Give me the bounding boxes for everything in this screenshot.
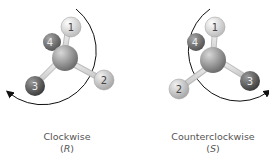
configuration-label: (S) bbox=[146, 143, 269, 155]
stereocenter bbox=[52, 45, 78, 71]
right-molecule: 4 1 2 3 bbox=[169, 9, 268, 101]
svg-text:2: 2 bbox=[101, 75, 107, 86]
left-caption: Clockwise (R) bbox=[0, 131, 134, 155]
configuration-label: (R) bbox=[0, 143, 134, 155]
svg-text:1: 1 bbox=[212, 22, 218, 33]
svg-text:4: 4 bbox=[47, 37, 53, 48]
svg-text:2: 2 bbox=[176, 84, 182, 95]
svg-text:1: 1 bbox=[68, 22, 74, 33]
svg-text:3: 3 bbox=[32, 81, 38, 92]
stereocenter bbox=[200, 47, 226, 73]
direction-label: Clockwise bbox=[0, 131, 134, 143]
direction-label: Counterclockwise bbox=[146, 131, 269, 143]
left-molecule: 4 1 2 3 bbox=[9, 9, 114, 105]
svg-text:4: 4 bbox=[192, 37, 198, 48]
right-caption: Counterclockwise (S) bbox=[146, 131, 269, 155]
svg-text:3: 3 bbox=[247, 76, 253, 87]
